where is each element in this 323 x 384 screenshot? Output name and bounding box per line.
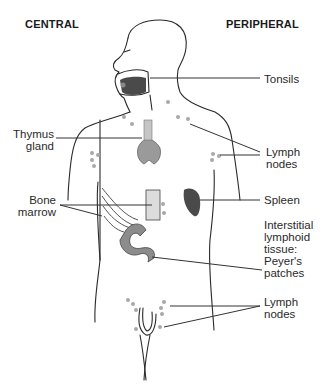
label-tonsils: Tonsils	[264, 73, 299, 85]
face-outline	[113, 38, 130, 112]
central-header: CENTRAL	[25, 18, 79, 30]
label-peyers-line4: Peyer's	[264, 255, 313, 267]
label-lymph-lower-line2: nodes	[264, 308, 298, 320]
thymus-gland	[137, 138, 160, 164]
label-spleen: Spleen	[264, 194, 300, 206]
label-thymus-line2: gland	[10, 140, 54, 152]
label-lymph-line2: nodes	[266, 158, 300, 170]
label-peyers-patches: Interstitial lymphoid tissue: Peyer's pa…	[264, 219, 313, 279]
peripheral-header: PERIPHERAL	[226, 18, 299, 30]
label-peyers-line2: lymphoid	[264, 231, 313, 243]
peyers-patches-organ	[120, 224, 155, 262]
label-lymph-lower-line1: Lymph	[264, 296, 298, 308]
lymphatic-system-diagram	[0, 0, 323, 384]
label-lymph-line1: Lymph	[266, 146, 300, 158]
label-peyers-line5: patches	[264, 267, 313, 279]
label-lymph-nodes-upper: Lymph nodes	[266, 146, 300, 170]
label-bone-marrow: Bone marrow	[4, 194, 56, 218]
label-peyers-line3: tissue:	[264, 243, 313, 255]
label-bone-line2: marrow	[4, 206, 56, 218]
head-outline	[128, 20, 240, 200]
label-thymus: Thymus gland	[10, 128, 54, 152]
label-bone-line1: Bone	[4, 194, 56, 206]
label-peyers-line1: Interstitial	[264, 219, 313, 231]
spleen-organ	[184, 188, 201, 216]
label-lymph-nodes-lower: Lymph nodes	[264, 296, 298, 320]
label-thymus-line1: Thymus	[10, 128, 54, 140]
